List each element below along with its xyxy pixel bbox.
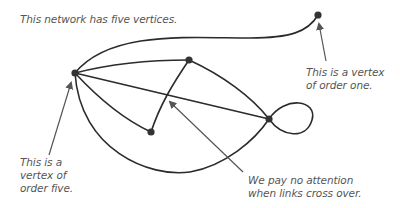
- edges: [75, 15, 318, 173]
- vertex-a: [71, 69, 78, 76]
- network-caption: This network has five vertices.: [20, 13, 177, 26]
- vertex-d: [265, 115, 272, 122]
- vertices: [71, 11, 321, 135]
- arrow-to-vertex-a: [49, 83, 71, 155]
- order-one-annotation: This is a vertex of order one.: [306, 66, 384, 92]
- vertex-b: [185, 56, 192, 63]
- edge-d-loop: [269, 103, 313, 134]
- arrow-to-crossing: [170, 102, 243, 172]
- arrow-to-vertex-e: [319, 24, 326, 61]
- crossing-annotation: We pay no attention when links cross ove…: [248, 174, 361, 200]
- edge-a-d-straight: [75, 73, 269, 119]
- edge-a-b: [75, 60, 189, 73]
- arrows: [49, 24, 326, 172]
- order-five-annotation: This is a vertex of order five.: [20, 156, 73, 195]
- vertex-c: [147, 128, 154, 135]
- vertex-e: [314, 11, 321, 18]
